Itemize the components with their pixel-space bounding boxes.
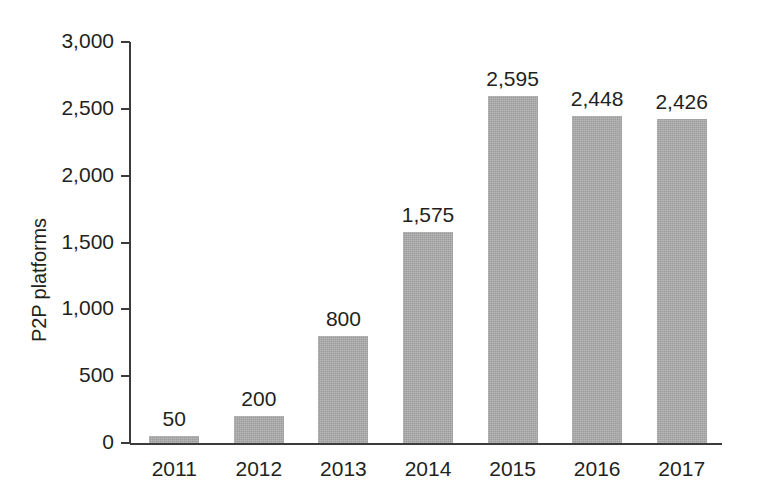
bar-group[interactable]: 200 bbox=[220, 42, 298, 443]
x-axis-tick-label: 2014 bbox=[389, 456, 467, 482]
bar[interactable] bbox=[488, 96, 538, 443]
plot-area: 502008001,5752,5952,4482,426 bbox=[130, 42, 722, 443]
y-axis-title: P2P platforms bbox=[26, 170, 52, 390]
bar[interactable] bbox=[403, 232, 453, 443]
bar-group[interactable]: 2,448 bbox=[558, 42, 636, 443]
x-axis-tick-label: 2015 bbox=[474, 456, 552, 482]
y-axis-tick-label: 2,000 bbox=[61, 161, 114, 189]
bar[interactable] bbox=[318, 336, 368, 443]
bar-chart: P2P platforms 3,0002,5002,0001,5001,0005… bbox=[0, 0, 759, 497]
y-axis-tick-mark bbox=[121, 442, 130, 444]
x-axis-tick-label: 2016 bbox=[558, 456, 636, 482]
bar-group[interactable]: 800 bbox=[304, 42, 382, 443]
y-axis-tick-mark bbox=[121, 41, 130, 43]
bar-group[interactable]: 1,575 bbox=[389, 42, 467, 443]
x-axis-tick-label: 2017 bbox=[643, 456, 721, 482]
x-axis-line bbox=[130, 443, 722, 445]
y-axis-tick-label: 3,000 bbox=[61, 27, 114, 55]
bar[interactable] bbox=[572, 116, 622, 443]
x-axis-tick-label: 2013 bbox=[304, 456, 382, 482]
bar-value-label: 50 bbox=[135, 406, 213, 432]
y-axis-tick-mark bbox=[121, 308, 130, 310]
y-axis-tick-mark bbox=[121, 242, 130, 244]
bar-value-label: 1,575 bbox=[389, 202, 467, 228]
bar-value-label: 200 bbox=[220, 386, 298, 412]
bar-value-label: 2,595 bbox=[474, 66, 552, 92]
x-axis-tick-label: 2011 bbox=[135, 456, 213, 482]
bar[interactable] bbox=[149, 436, 199, 443]
bar-value-label: 800 bbox=[304, 306, 382, 332]
y-axis-tick-mark bbox=[121, 375, 130, 377]
bar-value-label: 2,426 bbox=[643, 89, 721, 115]
y-axis-tick-label: 500 bbox=[79, 361, 114, 389]
x-axis-tick-label: 2012 bbox=[220, 456, 298, 482]
y-axis-tick-label: 1,500 bbox=[61, 228, 114, 256]
bar[interactable] bbox=[657, 119, 707, 443]
y-axis-tick-label: 1,000 bbox=[61, 294, 114, 322]
y-axis-tick-mark bbox=[121, 108, 130, 110]
bar[interactable] bbox=[234, 416, 284, 443]
y-axis-tick-label: 0 bbox=[102, 428, 114, 456]
y-axis-tick-mark bbox=[121, 175, 130, 177]
bar-group[interactable]: 2,426 bbox=[643, 42, 721, 443]
bar-value-label: 2,448 bbox=[558, 86, 636, 112]
bar-group[interactable]: 50 bbox=[135, 42, 213, 443]
bar-group[interactable]: 2,595 bbox=[474, 42, 552, 443]
y-axis-tick-label: 2,500 bbox=[61, 94, 114, 122]
